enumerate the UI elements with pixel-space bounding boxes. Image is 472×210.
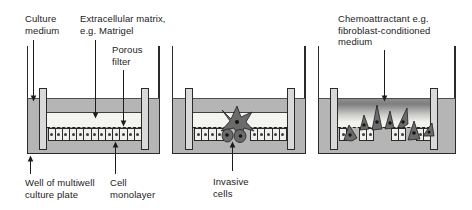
nucleus-icon xyxy=(281,133,284,136)
nucleus-icon xyxy=(260,133,263,136)
invasive-cells-label: Invasive cells xyxy=(213,176,249,199)
insert-wall-right-icon xyxy=(430,88,438,150)
arrowhead-up-icon xyxy=(28,156,34,162)
nucleus-icon xyxy=(50,133,53,136)
cell-monolayer-row xyxy=(250,128,287,141)
cell-monolayer-row xyxy=(359,128,374,141)
cell xyxy=(216,128,224,141)
nucleus-icon xyxy=(64,133,67,136)
invasion-assay-figure: Culture medium Extracellular matrix, e.g… xyxy=(0,0,472,210)
nucleus-icon xyxy=(267,133,270,136)
nucleus-icon xyxy=(57,133,60,136)
cell xyxy=(339,128,347,141)
porous-filter-label: Porous filter xyxy=(112,44,143,67)
insert-wall-right-icon xyxy=(287,88,295,150)
nucleus-icon xyxy=(79,133,82,136)
matrigel-layer xyxy=(193,112,287,127)
nucleus-icon xyxy=(86,133,89,136)
cell-monolayer-row xyxy=(339,128,347,141)
nucleus-icon xyxy=(108,133,111,136)
extracellular-matrix-label: Extracellular matrix, e.g. Matrigel xyxy=(80,13,166,36)
well-wall-left-icon xyxy=(318,46,320,99)
nucleus-icon xyxy=(115,133,118,136)
nucleus-icon xyxy=(204,133,207,136)
insert-wall-left-icon xyxy=(185,88,193,150)
nucleus-icon xyxy=(72,133,75,136)
nucleus-icon xyxy=(394,133,397,136)
nucleus-icon xyxy=(197,133,200,136)
chemoattractant-label: Chemoattractant e.g. fibroblast-conditio… xyxy=(338,13,431,48)
nucleus-icon xyxy=(274,133,277,136)
nucleus-icon xyxy=(253,133,256,136)
nucleus-icon xyxy=(129,133,132,136)
nucleus-icon xyxy=(93,133,96,136)
nucleus-icon xyxy=(211,133,214,136)
cell-monolayer-label: Cell monolayer xyxy=(110,177,155,200)
nucleus-icon xyxy=(362,133,365,136)
well-wall-left-icon xyxy=(172,46,174,99)
culture-medium-label: Culture medium xyxy=(25,13,59,36)
cell xyxy=(279,128,287,141)
nucleus-icon xyxy=(401,133,404,136)
cell xyxy=(366,128,374,141)
cell-monolayer-row xyxy=(391,128,406,141)
nucleus-icon xyxy=(136,133,139,136)
chemoattractant-medium-layer xyxy=(338,99,430,127)
well-wall-right-icon xyxy=(158,46,160,99)
well-wall-left-icon xyxy=(27,46,29,99)
nucleus-icon xyxy=(218,133,221,136)
cell-monolayer-row xyxy=(194,128,224,141)
insert-wall-right-icon xyxy=(141,88,149,150)
nucleus-icon xyxy=(100,133,103,136)
nucleus-icon xyxy=(419,133,422,136)
insert-wall-left-icon xyxy=(39,88,47,150)
cell-monolayer-row xyxy=(48,128,142,141)
matrigel-layer xyxy=(47,112,141,127)
well-wall-right-icon xyxy=(454,46,456,99)
nucleus-icon xyxy=(122,133,125,136)
cell xyxy=(398,128,406,141)
insert-wall-left-icon xyxy=(330,88,338,150)
nucleus-icon xyxy=(426,133,429,136)
well-wall-right-icon xyxy=(304,46,306,99)
nucleus-icon xyxy=(342,133,345,136)
nucleus-icon xyxy=(369,133,372,136)
well-of-multiwell-plate-label: Well of multiwell culture plate xyxy=(25,177,95,200)
